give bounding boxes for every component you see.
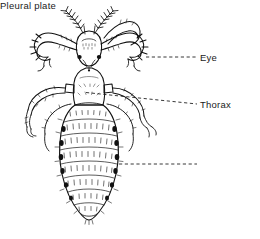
head-outline [76,31,101,66]
leader-lines [86,57,197,164]
label-eye: Eye [200,52,217,63]
thorax-outline [73,68,104,105]
leader-line-thorax [86,93,197,105]
head-texture [83,44,95,50]
antenna-left [61,7,84,34]
label-pleural-plate: Pleural plate [0,0,56,11]
leg-front-right [101,33,148,71]
louse-body [25,7,156,225]
abdomen-segments [60,119,118,205]
antennal-base-left [84,26,85,34]
leg-front-left [30,33,77,71]
leg-middle-right [104,84,156,137]
head-ocellus [88,69,90,71]
louse-illustration [0,0,260,239]
head-clypeus [82,39,96,41]
eye-right [97,55,101,59]
leg-hind-left [42,104,71,151]
louse-anatomy-figure: Eye Thorax Pleural plate [0,0,260,239]
abdomen-tip [81,214,97,216]
label-thorax: Thorax [200,99,231,110]
leg-middle-left [25,84,74,137]
thorax-texture [78,77,99,96]
antenna-right [95,7,118,34]
leg-front-right-upper [104,19,140,45]
eye-left [77,55,81,59]
